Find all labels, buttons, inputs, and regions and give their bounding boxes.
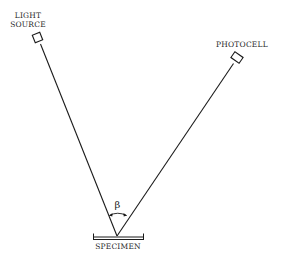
incident-ray (41, 44, 118, 236)
light-source-label-line1: LIGHT (6, 11, 50, 20)
photocell-label: PHOTOCELL (216, 40, 268, 49)
arc-arrow-right-icon (124, 213, 128, 217)
light-source-icon (32, 32, 42, 42)
specimen-label: SPECIMEN (88, 242, 148, 251)
reflected-ray (117, 64, 234, 237)
light-source-label: LIGHT SOURCE (6, 11, 50, 29)
angle-beta-label: β (115, 199, 121, 210)
light-source-label-line2: SOURCE (6, 20, 50, 29)
diagram-canvas (0, 0, 286, 259)
photocell-icon (231, 52, 243, 63)
